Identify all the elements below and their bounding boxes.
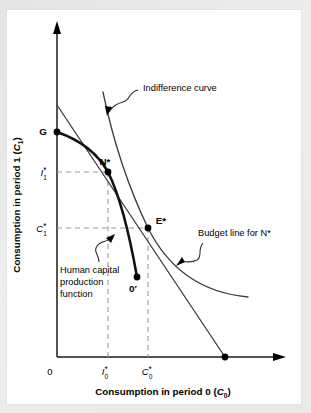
tick-sub-I1: 1 [43, 174, 47, 181]
economics-diagram: G N* E* 0′ Indifference curve Budget lin… [0, 0, 311, 413]
budget-leader-arrowhead [176, 257, 185, 266]
tick-label-C0-star: C*0 [142, 365, 153, 380]
x-axis-label-suffix: ) [227, 386, 230, 397]
indifference-curve [103, 92, 248, 297]
tick-label-I0-star: I*0 [102, 365, 109, 380]
annotation-human-capital-line2: production [60, 277, 103, 287]
y-axis-label-suffix: ) [11, 137, 22, 140]
curves-group [57, 92, 248, 357]
tick-sub-C0: 0 [149, 373, 153, 380]
point-label-0-prime: 0′ [129, 283, 137, 294]
annotation-indifference-curve: Indifference curve [143, 83, 217, 93]
tick-sub-I0: 0 [105, 373, 109, 380]
y-axis-label-prefix: Consumption in period 1 ( [11, 151, 22, 273]
figure-root: G N* E* 0′ Indifference curve Budget lin… [0, 0, 311, 413]
point-label-G: G [39, 126, 47, 137]
point-label-E-star: E* [156, 215, 167, 226]
point-G[interactable] [54, 129, 61, 136]
annotation-human-capital-line1: Human capital [60, 265, 119, 275]
human-capital-leader-line [96, 238, 111, 262]
y-axis-label: Consumption in period 1 (C1) [11, 137, 24, 272]
x-axis-arrowhead [273, 353, 286, 361]
tick-label-I1-star: I*1 [41, 166, 48, 181]
tick-sub-C1: 1 [43, 230, 47, 237]
y-axis-arrowhead [53, 21, 61, 34]
x-axis-label-prefix: Consumption in period 0 ( [95, 386, 217, 397]
tick-label-C1-star: C*1 [36, 222, 47, 237]
annotation-human-capital-line3: function [60, 289, 93, 299]
point-label-N-star: N* [100, 156, 111, 167]
x-axis-label: Consumption in period 0 (C0) [95, 386, 230, 399]
human-capital-leader-arrowhead [106, 234, 115, 243]
point-budget-x-intercept[interactable] [222, 354, 229, 361]
point-E-star[interactable] [145, 225, 152, 232]
indifference-leader-line [109, 90, 138, 112]
point-0-prime[interactable] [134, 274, 141, 281]
tick-label-origin: 0 [47, 366, 52, 377]
annotations-group: Indifference curve Budget line for N* Hu… [60, 83, 271, 299]
point-N-star[interactable] [105, 169, 112, 176]
axes-group [53, 21, 286, 361]
annotation-budget-line: Budget line for N* [198, 228, 271, 238]
